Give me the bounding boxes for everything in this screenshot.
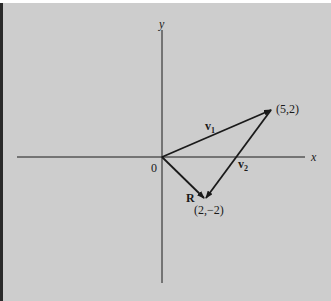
point-5-2-label: (5,2) xyxy=(276,102,299,116)
point-2-neg2-label: (2,−2) xyxy=(194,203,224,217)
vector-v2-label: v2 xyxy=(238,157,248,173)
vector-v1-label: v1 xyxy=(205,119,215,135)
vector-r xyxy=(162,157,204,198)
y-axis-label: y xyxy=(158,17,165,31)
vector-diagram: x y 0 v1 v2 R (5,2) (2,−2) xyxy=(0,0,331,301)
diagram-canvas: x y 0 v1 v2 R (5,2) (2,−2) xyxy=(0,0,331,301)
origin-label: 0 xyxy=(151,161,157,175)
x-axis-label: x xyxy=(310,150,317,164)
